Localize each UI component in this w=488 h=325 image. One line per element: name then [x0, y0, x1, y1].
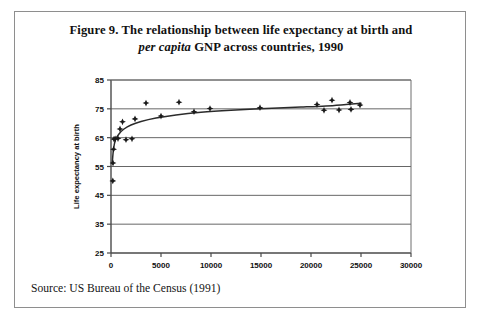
xtick-label-30000: 30000 — [400, 261, 423, 270]
scatter-plot-svg: 2535455565758505000100001500020000250003… — [15, 59, 467, 274]
xtick-label-20000: 20000 — [300, 261, 323, 270]
data-point-12 — [158, 113, 165, 120]
data-point-14 — [191, 108, 198, 115]
data-point-7 — [119, 118, 126, 125]
data-point-9 — [129, 135, 136, 142]
xtick-label-10000: 10000 — [200, 261, 223, 270]
data-point-23 — [357, 102, 364, 109]
y-axis-title: Life expectancy at birth — [72, 124, 81, 209]
ytick-label-25: 25 — [95, 249, 104, 258]
xtick-label-25000: 25000 — [350, 261, 373, 270]
axis-tick-labels: 2535455565758505000100001500020000250003… — [95, 76, 423, 270]
source-note: Source: US Bureau of the Census (1991) — [31, 282, 220, 295]
figure-container: Figure 9. The relationship between life … — [14, 11, 466, 308]
data-point-16 — [257, 104, 264, 111]
ytick-label-85: 85 — [95, 76, 104, 85]
figure-caption: Figure 9. The relationship between life … — [15, 22, 467, 56]
caption-line-2: per capita GNP across countries, 1990 — [15, 39, 467, 56]
ytick-label-55: 55 — [95, 163, 104, 172]
ytick-label-75: 75 — [95, 105, 104, 114]
xtick-label-5000: 5000 — [152, 261, 170, 270]
axis-titles: Country per capita GNP (1990 US $)Life e… — [72, 124, 326, 274]
data-point-13 — [176, 99, 183, 106]
caption-line-2-rest: GNP across countries, 1990 — [191, 40, 344, 54]
data-point-11 — [143, 100, 150, 107]
data-point-22 — [348, 106, 355, 113]
ytick-label-65: 65 — [95, 134, 104, 143]
grid-lines — [111, 80, 411, 224]
ytick-label-35: 35 — [95, 220, 104, 229]
ytick-label-45: 45 — [95, 191, 104, 200]
data-point-20 — [336, 107, 343, 114]
data-point-6 — [117, 126, 124, 133]
caption-italic-per-capita: per capita — [139, 40, 191, 54]
plot-area: 2535455565758505000100001500020000250003… — [15, 59, 467, 274]
data-point-10 — [132, 116, 139, 123]
caption-line-1: Figure 9. The relationship between life … — [15, 22, 467, 39]
xtick-label-15000: 15000 — [250, 261, 273, 270]
data-point-18 — [321, 107, 328, 114]
xtick-label-0: 0 — [109, 261, 114, 270]
data-point-19 — [329, 97, 336, 104]
